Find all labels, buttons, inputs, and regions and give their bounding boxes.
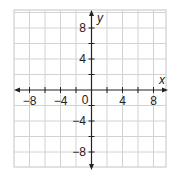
x-tick-label: −8 <box>23 94 37 108</box>
x-tick-label: −4 <box>54 94 68 108</box>
coordinate-plane: −8 −4 0 4 8 8 4 −4 −8 y x <box>0 0 178 177</box>
y-tick-label: 8 <box>79 21 86 35</box>
y-tick-label: −8 <box>72 145 86 159</box>
x-tick-label: 8 <box>150 94 157 108</box>
x-tick-label: 4 <box>119 94 126 108</box>
origin-label: 0 <box>82 93 89 107</box>
y-tick-label: −4 <box>72 114 86 128</box>
x-axis-label: x <box>158 73 166 87</box>
plot-frame <box>14 10 166 167</box>
y-axis-label: y <box>96 11 104 25</box>
y-tick-label: 4 <box>79 52 86 66</box>
